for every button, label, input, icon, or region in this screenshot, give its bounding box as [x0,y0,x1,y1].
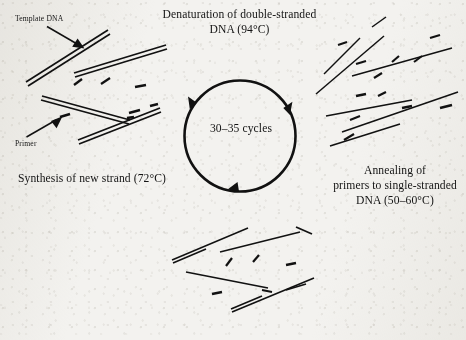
label-template-dna: Template DNA [15,14,63,24]
label-annealing-line-2: primers to single-stranded [324,179,466,194]
label-annealing-line-3: DNA (50–60°C) [324,194,466,209]
label-cycle-count: 30–35 cycles [186,122,296,137]
label-synthesis: Synthesis of new strand (72°C) [18,172,218,187]
primer-arrow-shaft [27,120,57,137]
label-denaturation-line-2: DNA (94°C) [152,23,327,38]
dna-cluster-right-single-stranded [316,17,458,146]
label-synthesis-line-1: Synthesis of new strand (72°C) [18,172,218,187]
template-dna-arrow-shaft [47,27,78,45]
label-denaturation-line-1: Denaturation of double-stranded [152,8,327,23]
label-annealing: Annealing of primers to single-stranded … [324,164,466,208]
pcr-cycle-diagram: Denaturation of double-stranded DNA (94°… [0,0,466,340]
label-primer: Primer [15,139,37,149]
label-annealing-line-1: Annealing of [324,164,466,179]
label-denaturation: Denaturation of double-stranded DNA (94°… [152,8,327,38]
dna-cluster-bottom-annealed [172,227,314,312]
dna-cluster-left-double-stranded [26,30,167,144]
